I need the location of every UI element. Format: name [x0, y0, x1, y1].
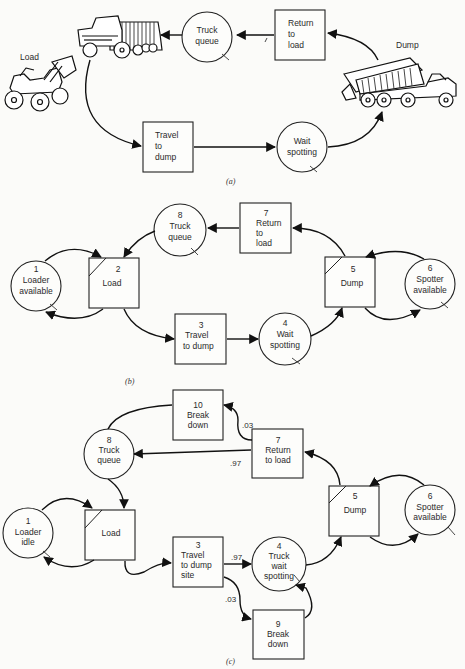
svg-text:to dump: to dump — [181, 560, 212, 570]
node-c-9-break-down: 9 Break down — [253, 610, 304, 659]
caption-a: (a) — [226, 177, 236, 186]
svg-text:queue: queue — [97, 455, 121, 465]
svg-text:spotting: spotting — [270, 340, 300, 350]
svg-text:5: 5 — [353, 491, 358, 501]
svg-text:Truck: Truck — [197, 25, 219, 35]
svg-text:5: 5 — [351, 264, 356, 274]
node-c-7-return-to-load: 7 Return to load — [252, 429, 303, 478]
svg-text:4: 4 — [277, 541, 282, 551]
svg-text:spotting: spotting — [287, 147, 317, 157]
cyclone-diagram-figure: Load Truck queue — [0, 0, 465, 669]
svg-text:Loader: Loader — [23, 275, 50, 285]
svg-text:Spotter: Spotter — [416, 274, 444, 284]
node-b-8-truck-queue: 8 Truck queue — [154, 204, 206, 256]
node-truck-queue: Truck queue — [182, 12, 232, 62]
svg-text:to: to — [155, 141, 162, 151]
node-b-3-travel-to-dump: 3 Travel to dump — [175, 314, 226, 364]
svg-text:Truck: Truck — [269, 551, 291, 561]
svg-text:dump: dump — [155, 152, 177, 162]
load-label: Load — [20, 52, 39, 62]
node-travel-to-dump: Travel to dump — [143, 122, 193, 172]
svg-text:to: to — [256, 228, 263, 238]
node-c-6-spotter-available: 6 Spotter available — [405, 485, 455, 535]
svg-text:3: 3 — [199, 320, 204, 330]
svg-text:3: 3 — [196, 540, 201, 550]
svg-text:7: 7 — [264, 208, 269, 218]
svg-text:1: 1 — [26, 516, 31, 526]
node-c-1-loader-idle: 1 Loader idle — [3, 508, 53, 558]
svg-text:2: 2 — [116, 264, 121, 274]
prob-travel-to-breakdown: .03 — [225, 595, 237, 604]
svg-text:load: load — [256, 238, 272, 248]
svg-text:Return: Return — [288, 18, 314, 28]
node-return-to-load: Return to load — [275, 10, 325, 60]
node-c-3-travel-to-dump-site: 3 Travel to dump site — [173, 537, 223, 587]
prob-return-to-breakdown: .03 — [242, 421, 254, 430]
svg-text:to: to — [288, 29, 295, 39]
svg-text:Truck: Truck — [170, 221, 192, 231]
svg-text:queue: queue — [195, 36, 219, 46]
node-b-7-return-to-load: 7 Return to load — [240, 203, 291, 253]
node-c-5-dump: 5 Dump — [329, 486, 379, 536]
svg-text:Wait: Wait — [294, 136, 311, 146]
svg-text:1: 1 — [34, 264, 39, 274]
svg-text:Travel: Travel — [155, 130, 178, 140]
diagram-a: Load Truck queue — [5, 10, 456, 186]
svg-text:Break: Break — [267, 629, 290, 639]
svg-text:available: available — [413, 285, 447, 295]
caption-b: (b) — [125, 377, 135, 386]
svg-text:Truck: Truck — [99, 445, 121, 455]
svg-text:Dump: Dump — [341, 278, 364, 288]
node-b-4-wait-spotting: 4 Wait spotting — [259, 313, 311, 365]
svg-text:Load: Load — [102, 528, 121, 538]
node-c-8-truck-queue: 8 Truck queue — [84, 429, 134, 479]
svg-text:load: load — [288, 40, 304, 50]
svg-text:Load: Load — [103, 278, 122, 288]
svg-text:6: 6 — [428, 263, 433, 273]
svg-text:available: available — [19, 286, 53, 296]
prob-return-to-queue: .97 — [230, 459, 242, 468]
svg-text:Return: Return — [256, 218, 282, 228]
svg-text:idle: idle — [21, 537, 35, 547]
prob-travel-to-wait: .97 — [231, 553, 243, 562]
svg-text:Travel: Travel — [185, 330, 208, 340]
svg-text:Wait: Wait — [277, 329, 294, 339]
diagram-c: 10 Break down 8 Truck queue 7 Return to … — [3, 390, 455, 666]
node-wait-spotting: Wait spotting — [277, 122, 327, 172]
svg-text:queue: queue — [168, 232, 192, 242]
svg-text:to dump: to dump — [183, 341, 214, 351]
svg-text:Dump: Dump — [344, 505, 367, 515]
dump-truck-icon — [78, 16, 162, 58]
node-b-2-load: 2 Load — [89, 258, 139, 308]
svg-text:available: available — [413, 512, 447, 522]
svg-text:Return: Return — [265, 445, 291, 455]
dump-label: Dump — [396, 40, 419, 50]
svg-text:down: down — [268, 639, 289, 649]
node-c-10-break-down: 10 Break down — [173, 390, 223, 440]
svg-text:7: 7 — [276, 435, 281, 445]
node-b-6-spotter-available: 6 Spotter available — [405, 259, 455, 309]
node-b-1-loader-available: 1 Loader available — [11, 261, 61, 311]
svg-text:spotting: spotting — [264, 571, 294, 581]
svg-text:to load: to load — [265, 455, 291, 465]
node-c-load: Load — [85, 510, 135, 560]
svg-text:Break: Break — [187, 410, 210, 420]
svg-text:9: 9 — [276, 619, 281, 629]
svg-text:4: 4 — [283, 318, 288, 328]
svg-text:site: site — [181, 570, 195, 580]
svg-text:wait: wait — [270, 561, 287, 571]
diagram-b: 1 Loader available 2 Load 3 Travel to du… — [11, 203, 455, 386]
front-loader-icon — [5, 56, 76, 111]
caption-c: (c) — [226, 657, 235, 666]
svg-text:6: 6 — [428, 491, 433, 501]
svg-text:Loader: Loader — [15, 527, 42, 537]
svg-text:Travel: Travel — [181, 550, 204, 560]
svg-text:8: 8 — [178, 210, 183, 220]
svg-text:down: down — [188, 420, 209, 430]
svg-text:8: 8 — [107, 435, 112, 445]
dumping-truck-icon — [342, 58, 456, 107]
svg-text:Spotter: Spotter — [416, 502, 444, 512]
node-c-4-truck-wait-spotting: 4 Truck wait spotting — [252, 537, 306, 591]
node-b-5-dump: 5 Dump — [325, 257, 375, 307]
svg-text:10: 10 — [193, 400, 203, 410]
